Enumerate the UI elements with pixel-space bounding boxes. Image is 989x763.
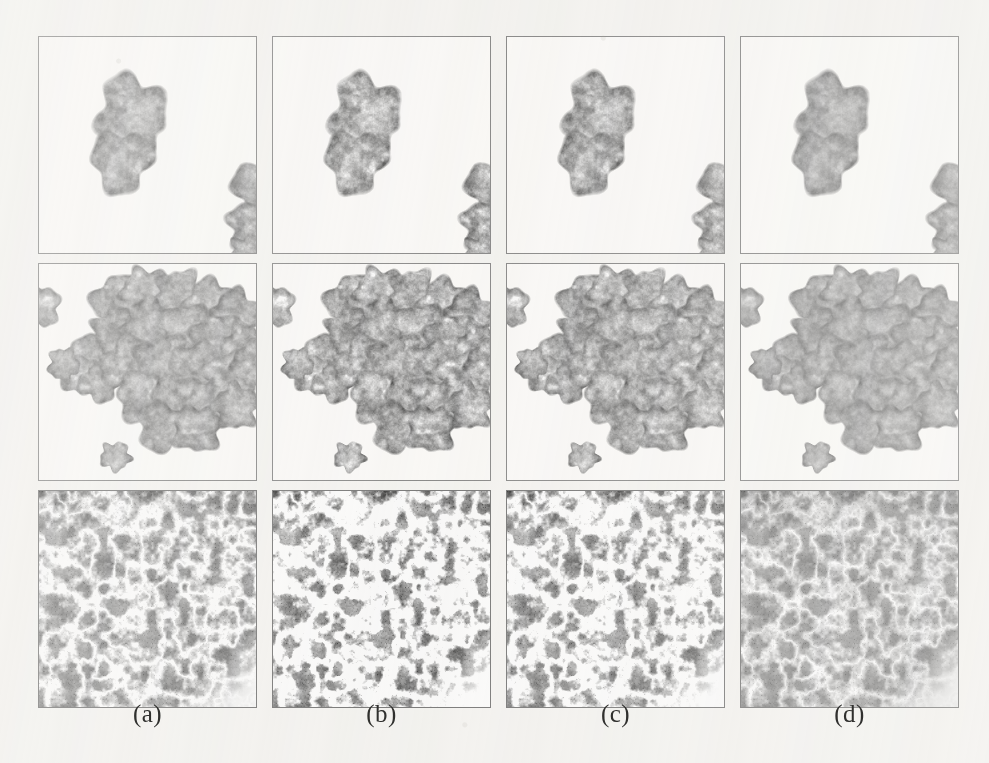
- caption-d: (d): [740, 700, 959, 728]
- caption-a: (a): [38, 700, 257, 728]
- panel-r1-c: [506, 36, 725, 254]
- panel-r1-d: [740, 36, 959, 254]
- panel-r1-a-image: [39, 37, 257, 254]
- panel-r3-a-image: [39, 491, 257, 708]
- panel-r3-a: [38, 490, 257, 708]
- panel-r3-b: [272, 490, 491, 708]
- panel-r2-c-image: [507, 264, 725, 481]
- panel-r2-d: [740, 263, 959, 481]
- panel-r3-c: [506, 490, 725, 708]
- panel-r2-a-image: [39, 264, 257, 481]
- panel-r1-d-image: [741, 37, 959, 254]
- panel-r1-c-image: [507, 37, 725, 254]
- panel-r1-a: [38, 36, 257, 254]
- panel-r2-b-image: [273, 264, 491, 481]
- panel-r3-d-image: [741, 491, 959, 708]
- panel-r2-d-image: [741, 264, 959, 481]
- caption-c: (c): [506, 700, 725, 728]
- panel-r3-c-image: [507, 491, 725, 708]
- panel-r2-a: [38, 263, 257, 481]
- caption-row: (a) (b) (c) (d): [38, 700, 959, 728]
- panel-r1-b: [272, 36, 491, 254]
- panel-r3-b-image: [273, 491, 491, 708]
- caption-b: (b): [272, 700, 491, 728]
- panel-r3-d: [740, 490, 959, 708]
- panel-r2-c: [506, 263, 725, 481]
- panel-r2-b: [272, 263, 491, 481]
- panel-r1-b-image: [273, 37, 491, 254]
- figure-grid: [38, 36, 959, 708]
